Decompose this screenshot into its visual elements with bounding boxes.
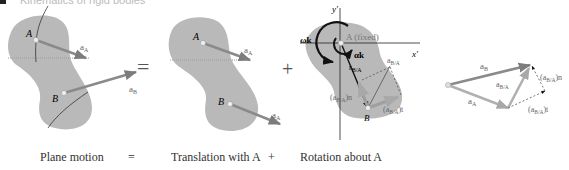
svg-text:x′: x′ (411, 49, 419, 59)
panel-plane-motion: A B aA aB (8, 6, 137, 129)
svg-text:aB/A: aB/A (387, 56, 400, 66)
svg-text:ωk: ωk (300, 35, 312, 45)
equals-sign: = (137, 54, 149, 79)
svg-text:A: A (192, 31, 200, 42)
svg-text:aA: aA (272, 110, 281, 121)
rigid-body-shape (169, 17, 259, 131)
svg-text:B: B (52, 93, 58, 104)
relative-acceleration-diagram: A B aA aB = A B aA aA + y′ x′ ωk αk A (f… (0, 0, 569, 170)
svg-text:aA: aA (80, 42, 89, 53)
svg-text:y′: y′ (331, 4, 339, 14)
rigid-body-shape (8, 15, 92, 129)
svg-text:A: A (25, 28, 33, 39)
svg-text:aB/A: aB/A (496, 80, 509, 90)
svg-text:B: B (364, 113, 370, 123)
caption-translation: Translation with A (171, 150, 261, 165)
svg-text:aA: aA (468, 96, 477, 107)
panel-vector-triangle: aB aA aB/A (aB/A)n (aB/A)t (445, 61, 562, 115)
svg-text:aB: aB (129, 84, 137, 95)
panel-rotation: y′ x′ ωk αk A (fixed) rB/A aB/A (aB/A)n … (300, 4, 420, 140)
plus-sign: + (282, 58, 293, 80)
panel-translation: A B aA aA (169, 17, 281, 131)
caption-rotation: Rotation about A (300, 150, 382, 165)
caption-plus: + (268, 150, 275, 165)
caption-plane-motion: Plane motion (40, 150, 104, 165)
svg-text:A (fixed): A (fixed) (346, 32, 379, 42)
svg-text:(aB/A)n: (aB/A)n (540, 73, 562, 83)
caption-equals: = (128, 150, 135, 165)
svg-text:aA: aA (244, 45, 253, 56)
svg-text:αk: αk (354, 50, 364, 60)
svg-text:aB: aB (480, 61, 488, 72)
svg-text:B: B (218, 96, 224, 107)
svg-text:(aB/A)t: (aB/A)t (528, 105, 549, 115)
